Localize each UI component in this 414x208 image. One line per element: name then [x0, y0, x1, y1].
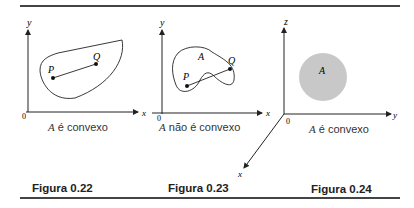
point-p: [51, 76, 55, 80]
label-z: z: [283, 16, 288, 27]
caption-0-24: A é convexo: [309, 123, 369, 135]
x-axis: [244, 114, 284, 168]
caption-text: é convexo: [55, 121, 108, 133]
label-y: y: [26, 17, 32, 28]
label-y: y: [159, 17, 165, 28]
label-x: x: [265, 108, 270, 118]
label-p: P: [47, 64, 54, 75]
figure-0-24-diagram: A z y x 0: [237, 16, 397, 179]
point-p: [185, 84, 189, 88]
figure-label-0-22: Figura 0.22: [32, 182, 93, 194]
caption-text: é convexo: [316, 123, 369, 135]
disk-region: [299, 53, 347, 101]
label-x-left: x: [141, 108, 146, 118]
segment-pq: [53, 64, 96, 78]
figure-label-0-23: Figura 0.23: [168, 182, 229, 194]
caption-var: A: [309, 123, 316, 135]
label-origin: 0: [286, 117, 290, 126]
label-a: A: [318, 65, 326, 76]
label-a: A: [197, 51, 205, 62]
caption-text: não é convexo: [166, 121, 241, 133]
caption-var: A: [48, 121, 55, 133]
figure-0-22-diagram: P Q y 0: [22, 17, 138, 121]
label-q: Q: [93, 51, 101, 62]
caption-0-23: A não é convexo: [159, 121, 240, 133]
label-q: Q: [228, 55, 236, 66]
label-y: y: [392, 110, 397, 120]
point-q: [228, 67, 232, 71]
figures-canvas: P Q y 0 P Q A y x x 0 A z y x 0: [0, 0, 414, 208]
figure-0-23-diagram: P Q A y x x 0: [141, 17, 270, 123]
figure-label-0-24: Figura 0.24: [311, 183, 372, 195]
caption-0-22: A é convexo: [48, 121, 108, 133]
caption-var: A: [159, 121, 166, 133]
point-q: [94, 62, 98, 66]
label-origin: 0: [22, 112, 26, 121]
label-p: P: [182, 71, 189, 82]
label-x: x: [237, 169, 242, 179]
